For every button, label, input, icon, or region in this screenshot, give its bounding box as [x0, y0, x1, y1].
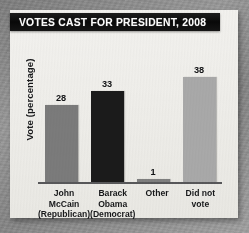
x-tick-line: McCain: [38, 199, 90, 210]
x-tick-mccain: John McCain (Republican): [38, 188, 90, 220]
x-tick-line: John: [38, 188, 90, 199]
x-tick-line: Barack: [90, 188, 135, 199]
x-tick-line: vote: [179, 199, 222, 210]
x-tick-did-not-vote: Did not vote: [179, 188, 222, 220]
y-axis-label: Vote (percentage): [24, 45, 35, 155]
bar-did-not-vote[interactable]: [183, 77, 216, 182]
x-axis-line: [38, 182, 222, 184]
plot-area: Vote (percentage) 28 33 1 38: [10, 46, 238, 218]
x-tick-line: (Republican): [38, 209, 90, 220]
bar-value-label: 33: [102, 80, 112, 89]
x-tick-line: Other: [135, 188, 178, 199]
x-tick-line: (Democrat): [90, 209, 135, 220]
x-tick-line: Did not: [179, 188, 222, 199]
screenshot-root: Vote (percentage) 28 33 1 38: [0, 0, 249, 233]
bar-obama[interactable]: [91, 91, 124, 182]
x-tick-line: Obama: [90, 199, 135, 210]
bar-group: 28 33 1 38: [38, 46, 222, 182]
bar-value-label: 28: [56, 94, 66, 103]
bar-column-mccain[interactable]: 28: [38, 46, 84, 182]
bar-column-other[interactable]: 1: [130, 46, 176, 182]
bar-column-did-not-vote[interactable]: 38: [176, 46, 222, 182]
x-tick-obama: Barack Obama (Democrat): [90, 188, 135, 220]
bar-mccain[interactable]: [45, 105, 78, 182]
x-tick-other: Other: [135, 188, 178, 220]
bar-value-label: 1: [150, 168, 155, 177]
bar-column-obama[interactable]: 33: [84, 46, 130, 182]
chart-card: Vote (percentage) 28 33 1 38: [10, 10, 238, 218]
bar-value-label: 38: [194, 66, 204, 75]
chart-title-bar: VOTES CAST FOR PRESIDENT, 2008: [10, 13, 220, 31]
x-axis-tick-labels: John McCain (Republican) Barack Obama (D…: [38, 188, 222, 220]
chart-title: VOTES CAST FOR PRESIDENT, 2008: [10, 17, 206, 28]
